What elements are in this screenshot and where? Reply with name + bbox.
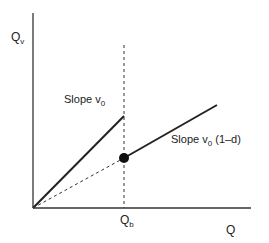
y-axis-label: Qv (11, 31, 24, 43)
threshold-label-main: Q (120, 213, 129, 227)
slope1-text: Slope v (64, 93, 101, 105)
slope2-sub: 0 (208, 139, 212, 148)
reference-dashed-line (33, 158, 124, 208)
steep-slope-line (33, 116, 124, 208)
x-axis-label: Q (226, 224, 235, 236)
threshold-label-sub: b (129, 220, 133, 229)
x-axis-label-main: Q (226, 223, 235, 237)
y-axis-label-sub: v (20, 37, 24, 46)
slope1-sub: 0 (101, 99, 105, 108)
slope1-label: Slope v0 (64, 94, 105, 105)
slope2-label: Slope v0 (1–d) (171, 134, 241, 145)
breakpoint-dot (119, 153, 129, 163)
diagram-canvas (0, 0, 269, 243)
slope2-text: Slope v (171, 133, 208, 145)
slope2-suffix: (1–d) (212, 133, 241, 145)
shallow-slope-line (124, 105, 217, 158)
y-axis-label-main: Q (11, 30, 20, 44)
threshold-label: Qb (120, 214, 134, 226)
